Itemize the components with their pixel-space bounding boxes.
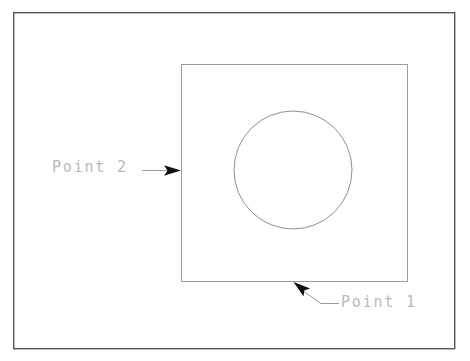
cad-drawing-canvas: Point 2 Point 1 [0, 0, 470, 361]
inner-square [182, 65, 408, 282]
leader-point-1-line [303, 291, 340, 304]
figure-caption-clipped [14, 354, 314, 361]
circle-hole [234, 111, 352, 229]
leader-point-2 [142, 165, 181, 176]
label-point-2: Point 2 [52, 160, 128, 175]
leader-point-1 [294, 282, 340, 304]
label-point-1: Point 1 [341, 295, 417, 310]
